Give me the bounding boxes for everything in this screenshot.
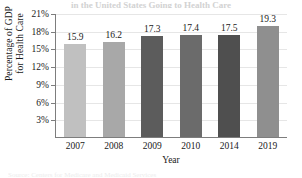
- y-axis-title-line-1: Percentage of GDP: [4, 0, 15, 92]
- plot-area: 3%6%9%12%15%18%21% 15.916.217.317.417.51…: [55, 14, 287, 138]
- bar-value-label: 15.9: [67, 32, 84, 42]
- y-tick-mark: [51, 103, 55, 104]
- bar-column: 15.9: [64, 14, 86, 137]
- bar-2019[interactable]: [257, 26, 279, 137]
- bar-value-label: 19.3: [259, 14, 276, 24]
- x-tick-label-2007: 2007: [66, 141, 85, 151]
- bar-column: 17.5: [218, 14, 240, 137]
- bar-value-label: 17.3: [144, 24, 161, 34]
- y-tick-mark: [51, 67, 55, 68]
- x-tick-label-2009: 2009: [143, 141, 162, 151]
- bar-2009[interactable]: [141, 36, 163, 137]
- y-tick-label: 6%: [36, 98, 49, 108]
- y-tick-mark: [51, 85, 55, 86]
- x-axis-title: Year: [55, 155, 287, 165]
- bar-value-label: 17.5: [221, 23, 238, 33]
- chart-title: in the United States Going to Health Car…: [0, 0, 302, 8]
- bar-value-label: 16.2: [105, 30, 122, 40]
- x-axis-ticks: 200720082009201020142019: [56, 141, 287, 153]
- y-tick-label: 3%: [36, 115, 49, 125]
- bar-2007[interactable]: [64, 44, 86, 137]
- bar-chart-figure: in the United States Going to Health Car…: [0, 0, 302, 178]
- bar-2008[interactable]: [103, 42, 125, 137]
- x-tick-label-2008: 2008: [104, 141, 123, 151]
- bar-2010[interactable]: [180, 35, 202, 137]
- y-tick-label: 15%: [32, 44, 49, 54]
- y-axis-title-line-2: for Health Care: [14, 0, 25, 92]
- y-axis-title: Percentage of GDP for Health Care: [4, 0, 25, 92]
- bar-column: 19.3: [257, 14, 279, 137]
- x-tick-label-2019: 2019: [258, 141, 277, 151]
- bar-column: 17.3: [141, 14, 163, 137]
- x-tick-label-2014: 2014: [220, 141, 239, 151]
- y-tick-label: 21%: [32, 9, 49, 19]
- bar-column: 16.2: [103, 14, 125, 137]
- y-tick-mark: [51, 32, 55, 33]
- bar-value-label: 17.4: [182, 23, 199, 33]
- y-tick-mark: [51, 14, 55, 15]
- bar-column: 17.4: [180, 14, 202, 137]
- bar-series: 15.916.217.317.417.519.3: [56, 14, 287, 137]
- bar-2014[interactable]: [218, 35, 240, 138]
- x-axis-line: [55, 137, 287, 138]
- y-tick-label: 9%: [36, 80, 49, 90]
- y-tick-mark: [51, 120, 55, 121]
- y-tick-mark: [51, 49, 55, 50]
- x-tick-label-2010: 2010: [181, 141, 200, 151]
- source-caption: Source: Centers for Medicare and Medicai…: [8, 171, 228, 178]
- y-tick-label: 12%: [32, 62, 49, 72]
- y-tick-label: 18%: [32, 27, 49, 37]
